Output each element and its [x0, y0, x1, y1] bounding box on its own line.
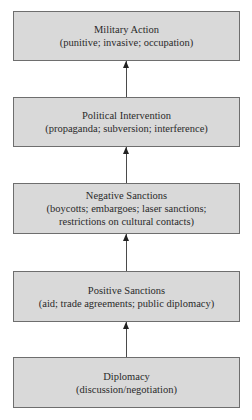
box-title: Negative Sanctions — [86, 189, 167, 202]
box-title: Positive Sanctions — [88, 284, 165, 297]
box-positive-sanctions: Positive Sanctions (aid; trade agreement… — [13, 271, 240, 322]
arrow-up-icon — [126, 61, 127, 97]
box-title: Military Action — [94, 23, 159, 36]
box-detail-line-2: restrictions on cultural contacts) — [59, 215, 194, 228]
box-detail-line-1: (boycotts; embargoes; laser sanctions; — [47, 202, 207, 215]
arrowhead-icon — [123, 61, 129, 68]
box-detail: (propaganda; subversion; interference) — [45, 122, 208, 135]
box-detail: (discussion/negotiation) — [76, 383, 177, 396]
box-political-intervention: Political Intervention (propaganda; subv… — [13, 97, 240, 147]
box-diplomacy: Diplomacy (discussion/negotiation) — [13, 357, 240, 408]
arrow-up-icon — [126, 234, 127, 271]
arrowhead-icon — [123, 322, 129, 329]
box-title: Political Intervention — [82, 109, 171, 122]
box-detail: (punitive; invasive; occupation) — [60, 36, 194, 49]
box-detail: (aid; trade agreements; public diplomacy… — [39, 297, 215, 310]
escalation-diagram: Military Action (punitive; invasive; occ… — [0, 0, 252, 420]
box-military-action: Military Action (punitive; invasive; occ… — [13, 11, 240, 61]
arrow-up-icon — [126, 147, 127, 183]
arrowhead-icon — [123, 234, 129, 241]
arrowhead-icon — [123, 147, 129, 154]
arrow-up-icon — [126, 322, 127, 357]
box-negative-sanctions: Negative Sanctions (boycotts; embargoes;… — [13, 183, 240, 234]
box-title: Diplomacy — [103, 370, 150, 383]
